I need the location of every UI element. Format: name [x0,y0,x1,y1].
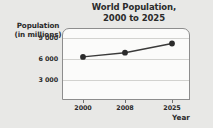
y-tick-label-9000: 9 000 [24,34,58,42]
chart-title-line-2: 2000 to 2025 [62,13,206,24]
x-tick-mark-2000 [83,100,84,103]
x-axis-label: Year [172,113,190,122]
chart-title: World Population, 2000 to 2025 [62,2,206,23]
y-axis-tick-labels: 9 000 6 000 3 000 [24,28,58,100]
plot-right-border [189,40,190,100]
series-polyline [83,44,172,57]
data-point-2008 [122,50,128,56]
x-tick-label-2025: 2025 [159,104,185,112]
data-series-line [62,28,190,100]
data-point-2025 [169,41,175,47]
data-point-2000 [80,54,86,60]
chart-figure: World Population, 2000 to 2025 Populatio… [0,0,213,128]
x-tick-label-2008: 2008 [112,104,138,112]
x-tick-label-2000: 2000 [70,104,96,112]
chart-title-line-1: World Population, [62,2,206,13]
x-axis-tick-labels: 2000 2008 2025 [62,100,190,114]
y-tick-label-6000: 6 000 [24,55,58,63]
x-tick-mark-2025 [172,100,173,103]
y-tick-label-3000: 3 000 [24,76,58,84]
x-tick-mark-2008 [125,100,126,103]
